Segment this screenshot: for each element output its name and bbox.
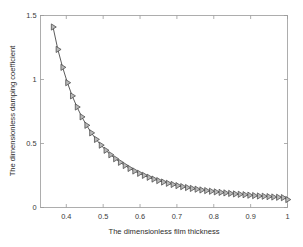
x-tick-label: 0.4 xyxy=(61,212,71,221)
damping-coefficient-line-chart: 0.40.50.60.70.80.91 00.511.5 The dimensi… xyxy=(0,0,303,247)
chart-figure: 0.40.50.60.70.80.91 00.511.5 The dimensi… xyxy=(0,0,303,247)
x-tick-label: 0.6 xyxy=(135,212,145,221)
y-tick-label: 1 xyxy=(32,75,36,84)
x-axis-title: The dimensionless film thickness xyxy=(109,227,220,236)
x-tick-label: 0.9 xyxy=(245,212,255,221)
x-tick-label: 0.8 xyxy=(209,212,219,221)
figure-background xyxy=(0,0,303,247)
x-tick-label: 0.5 xyxy=(98,212,108,221)
y-tick-label: 1.5 xyxy=(26,11,36,20)
x-tick-label: 0.7 xyxy=(172,212,182,221)
y-axis-title: The dimensionless damping coefficient xyxy=(8,45,17,177)
y-tick-label: 0 xyxy=(32,203,36,212)
x-tick-label: 1 xyxy=(285,212,289,221)
y-tick-label: 0.5 xyxy=(26,139,36,148)
